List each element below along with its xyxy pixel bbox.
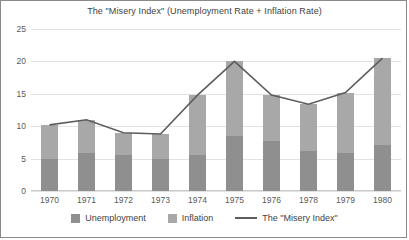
x-tick-label-1975: 1975 (225, 195, 244, 205)
bar-segment-unemployment (152, 159, 169, 191)
x-tick-label-1978: 1978 (299, 195, 318, 205)
bar-segment-unemployment (374, 145, 391, 191)
bar-segment-unemployment (300, 151, 317, 191)
bar-segment-unemployment (41, 159, 58, 191)
y-tick-label-25: 25 (17, 24, 26, 34)
bar-group (189, 95, 206, 191)
bar-segment-inflation (41, 125, 58, 159)
gridline-20 (31, 61, 401, 62)
x-tick-label-1973: 1973 (151, 195, 170, 205)
bar-segment-unemployment (189, 155, 206, 191)
legend-label: Inflation (182, 213, 214, 223)
bar-segment-unemployment (78, 153, 95, 191)
bar-segment-inflation (78, 120, 95, 153)
x-tick-label-1980: 1980 (373, 195, 392, 205)
x-tick-label-1971: 1971 (77, 195, 96, 205)
bar-segment-inflation (115, 133, 132, 155)
legend-color-swatch (168, 214, 177, 223)
bar-segment-unemployment (263, 141, 280, 191)
gridline-0 (31, 191, 401, 192)
bar-group (41, 125, 58, 191)
bar-segment-inflation (374, 58, 391, 145)
bar-group (374, 58, 391, 191)
legend-color-swatch (71, 214, 80, 223)
x-tick-label-1972: 1972 (114, 195, 133, 205)
y-tick-label-20: 20 (17, 56, 26, 66)
y-tick-label-15: 15 (17, 89, 26, 99)
bar-segment-inflation (189, 95, 206, 155)
legend-label: The "Misery Index" (262, 213, 337, 223)
y-tick-label-5: 5 (21, 154, 26, 164)
bar-segment-inflation (226, 61, 243, 136)
y-tick-label-10: 10 (17, 121, 26, 131)
bar-segment-inflation (337, 93, 354, 154)
y-tick-label-0: 0 (21, 186, 26, 196)
legend-label: Unemployment (85, 213, 146, 223)
legend-line-marker (235, 217, 257, 219)
chart-frame: The "Misery Index" (Unemployment Rate + … (0, 0, 407, 238)
legend-entry: Inflation (168, 213, 214, 223)
bar-segment-unemployment (115, 155, 132, 191)
chart-legend: UnemploymentInflationThe "Misery Index" (1, 213, 408, 223)
bar-group (78, 120, 95, 191)
x-tick-label-1974: 1974 (188, 195, 207, 205)
chart-title: The "Misery Index" (Unemployment Rate + … (1, 6, 408, 16)
bar-group (300, 104, 317, 191)
bar-group (337, 93, 354, 191)
bar-group (115, 133, 132, 191)
bar-segment-inflation (263, 95, 280, 141)
legend-entry: Unemployment (71, 213, 146, 223)
bar-group (152, 134, 169, 191)
bar-segment-inflation (152, 134, 169, 159)
plot-area: 0510152025 19701971197219731974197519761… (31, 29, 401, 191)
x-tick-label-1979: 1979 (336, 195, 355, 205)
x-tick-label-1976: 1976 (262, 195, 281, 205)
bar-group (263, 95, 280, 191)
bar-segment-inflation (300, 104, 317, 151)
legend-entry: The "Misery Index" (235, 213, 337, 223)
bar-group (226, 61, 243, 191)
gridline-25 (31, 29, 401, 30)
bar-segment-unemployment (226, 136, 243, 191)
bar-segment-unemployment (337, 153, 354, 191)
x-tick-label-1970: 1970 (40, 195, 59, 205)
